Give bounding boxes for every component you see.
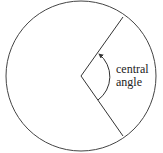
label-angle: angle — [116, 75, 142, 89]
central-angle-diagram: central angle — [0, 0, 163, 153]
label-central: central — [116, 62, 149, 76]
angle-arc-arrow — [98, 54, 110, 100]
